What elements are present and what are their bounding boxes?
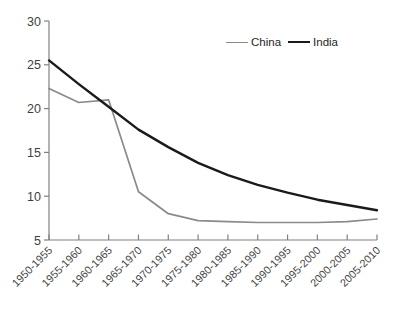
- chart-legend: China India: [226, 36, 338, 48]
- legend-label-india: India: [313, 36, 338, 48]
- legend-label-china: China: [251, 36, 281, 48]
- y-tick-label: 5: [34, 234, 41, 248]
- series-line-india: [49, 60, 377, 210]
- legend-item-china: China: [226, 36, 281, 48]
- y-tick-label: 10: [27, 190, 41, 204]
- legend-item-india: India: [288, 36, 338, 48]
- line-chart: 510152025301950-19551955-19601960-196519…: [0, 0, 396, 311]
- china-line-swatch: [226, 42, 248, 43]
- y-tick-label: 20: [27, 102, 41, 116]
- y-tick-label: 25: [27, 58, 41, 72]
- y-tick-label: 15: [27, 146, 41, 160]
- india-line-swatch: [288, 41, 310, 43]
- y-tick-label: 30: [27, 15, 41, 29]
